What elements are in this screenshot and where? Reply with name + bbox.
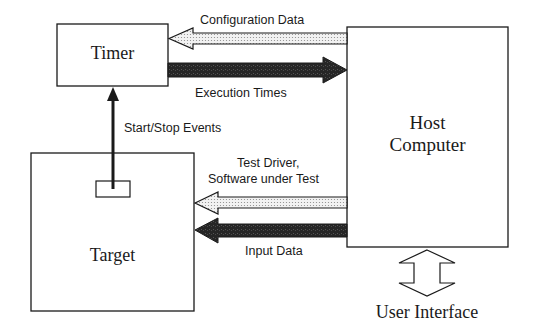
configuration-data-label: Configuration Data: [200, 13, 304, 27]
test-driver-label-line1: Test Driver,: [237, 156, 300, 170]
user-interface-arrow: [399, 250, 455, 296]
user-interface-label: User Interface: [360, 302, 494, 323]
test-driver-label-line2: Software under Test: [208, 172, 319, 186]
timer-label: Timer: [57, 43, 168, 64]
configuration-data-arrow: [169, 28, 347, 49]
start-stop-events-label: Start/Stop Events: [124, 121, 221, 135]
test-driver-arrow: [195, 192, 347, 214]
host-label-line2: Computer: [347, 134, 508, 156]
target-label: Target: [31, 245, 194, 266]
input-data-arrow: [195, 218, 347, 243]
input-data-label: Input Data: [245, 244, 303, 258]
execution-times-label: Execution Times: [195, 86, 287, 100]
host-label-line1: Host: [347, 112, 508, 134]
diagram-canvas: Timer Host Computer Target Configuration…: [0, 0, 536, 331]
execution-times-arrow: [168, 57, 347, 83]
